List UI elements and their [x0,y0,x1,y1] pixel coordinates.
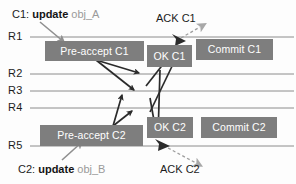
client-request-c2-object: obj_B [77,163,105,175]
client-request-c1-object: obj_A [71,8,99,20]
message-box-pre-accept-c2[interactable]: Pre-accept C2 [40,125,143,146]
arrow-c2-to-r4 [113,111,132,126]
replica-label-r2: R2 [8,67,22,79]
commit-head-r5 [155,139,170,151]
arrow-c1-to-r3 [96,60,134,90]
client-request-c2-verb: update [38,163,74,175]
message-box-ok-c1[interactable]: OK C1 [147,45,192,67]
message-box-ok-c2[interactable]: OK C2 [147,117,193,138]
client-request-c2: C2: update obj_B [18,163,105,175]
message-box-pre-accept-c1[interactable]: Pre-accept C1 [45,41,144,61]
client-request-c1-verb: update [32,8,68,20]
replica-label-r3: R3 [8,84,22,96]
ack-arrow-c2 [168,148,196,163]
arrow-c2-to-r3 [113,95,122,126]
client-request-c2-prefix: C2: [18,163,35,175]
replica-label-r4: R4 [8,101,22,113]
preaccept-c1-arrows [96,60,139,90]
sequence-diagram: R1 R2 R3 R4 R5 Pre-accept C1 OK C1 Commi… [0,0,296,184]
client-request-c1-prefix: C1: [12,8,29,20]
ack-arrow-c1 [181,27,200,38]
replica-label-r1: R1 [8,30,22,42]
message-box-commit-c1[interactable]: Commit C1 [196,39,273,60]
preaccept-c2-arrows [113,95,132,126]
ack-label-c1: ACK C1 [156,12,196,24]
replica-label-r5: R5 [8,139,22,151]
diagram-vector-layer [0,0,296,184]
arrow-c1-to-r2 [96,60,139,73]
message-box-commit-c2[interactable]: Commit C2 [201,117,277,138]
ack-label-c2: ACK C2 [160,163,200,175]
client-request-c1: C1: update obj_A [12,8,99,20]
client-arrow-c1 [40,22,64,42]
